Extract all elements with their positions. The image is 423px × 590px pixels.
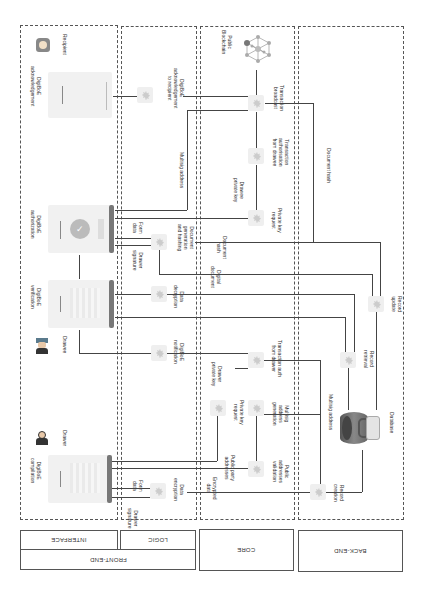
multisig-generation-node[interactable] — [248, 400, 264, 416]
tx-broadcast-node[interactable] — [248, 95, 264, 111]
public-addresses-validation-label: Public addresses validation — [272, 460, 290, 483]
compilation-screen[interactable] — [48, 455, 112, 503]
record-retrieval-label: Record retrieval — [363, 350, 375, 368]
database-label: Database — [389, 412, 395, 433]
edge-multisig-horizontal-top — [187, 110, 248, 111]
authorization-screen[interactable]: ✓ — [48, 205, 112, 253]
gear-icon — [154, 289, 165, 300]
edge-decryption-retrieval-vertical — [354, 294, 355, 352]
data-encryption-node[interactable] — [150, 483, 166, 499]
frontend-label: FRONT-END — [20, 549, 196, 570]
edge-ack-node-to-broadcast — [183, 96, 248, 97]
gear-icon — [251, 213, 262, 224]
edge-document-hash — [195, 242, 380, 243]
data-decryption-label: Data decryption — [173, 285, 185, 308]
edge-creation-to-db-h — [326, 492, 362, 493]
edge-compilation-to-pk-request — [112, 461, 217, 462]
drawer-avatar-icon — [35, 431, 49, 445]
edge-multisig-vertical — [187, 110, 188, 210]
private-key-request-bottom-label: Private key request — [233, 400, 245, 425]
edge-auth-to-verification — [79, 255, 80, 279]
gear-icon — [153, 486, 164, 497]
public-addresses-validation-node[interactable] — [248, 461, 264, 477]
backend-label: BACK-END — [298, 530, 403, 572]
form-data-label-top: Form data — [132, 222, 144, 234]
form-data-label-bottom: Form data — [132, 480, 144, 492]
multisig-address-label-bottom: Multisig address — [328, 394, 334, 430]
edge-form-data-top — [115, 238, 151, 239]
private-key-request-top-label: Private key request — [271, 208, 283, 233]
acknowledgement-screen-title: DigiBoE acknowledgement — [30, 66, 42, 106]
tx-auth-drawer-node[interactable] — [248, 352, 264, 368]
encrypted-data-label: Encrypted data — [206, 477, 218, 500]
edge-long-hash-to-broadcast — [265, 103, 313, 104]
edge-pk-request-bottom-vertical — [217, 416, 218, 461]
edge-decryption-to-retrieval — [167, 294, 354, 295]
tx-auth-drawee-node[interactable] — [248, 148, 264, 164]
doc-generation-label: Document generation and hashing — [177, 224, 195, 251]
doc-generation-node[interactable] — [151, 234, 167, 250]
gear-icon — [371, 299, 382, 310]
edge-multisig-to-generation — [264, 414, 320, 415]
recipient-label: Recipient — [62, 34, 68, 55]
interface-label: INTERFACE — [20, 530, 118, 550]
edge-encrypted-data — [187, 492, 310, 493]
edge-signature-top — [115, 245, 151, 246]
edge-signature-bottom — [112, 497, 150, 498]
drawer-signature-label-top: Drawer signature — [132, 250, 144, 271]
drawee-label: Drawee — [62, 336, 68, 353]
gear-icon — [251, 355, 262, 366]
gear-icon — [251, 98, 262, 109]
gear-icon — [251, 403, 262, 414]
edge-retrieval-to-db — [348, 368, 349, 410]
edge-multisig-bottom-vertical — [320, 360, 321, 484]
data-decryption-node[interactable] — [151, 286, 167, 302]
edge-update-to-db — [376, 312, 377, 410]
edge-verification-to-retrieval — [115, 317, 345, 318]
document-hash-label: Document hash — [216, 236, 228, 259]
notification-node[interactable] — [151, 345, 167, 361]
edge-verification-to-decryption — [115, 294, 151, 295]
database-icon — [340, 410, 382, 446]
drawee-avatar-icon — [35, 338, 49, 354]
edge-docgen-down — [159, 250, 160, 274]
record-retrieval-node[interactable] — [340, 352, 356, 368]
edge-compilation-to-validation — [112, 468, 248, 469]
public-blockchain-icon — [242, 33, 274, 65]
edge-creation-to-db-v — [362, 450, 363, 492]
compilation-screen-bar — [107, 455, 112, 503]
private-key-request-top-node[interactable] — [248, 210, 264, 226]
edge-form-data-bottom — [112, 488, 150, 489]
tx-auth-drawer-label: Transaction auth from drawer — [271, 340, 283, 377]
gear-icon — [140, 90, 151, 101]
edge-long-document-hash — [313, 103, 314, 242]
gear-icon — [154, 237, 165, 248]
notification-label: DigiBoE notification — [173, 340, 185, 364]
record-creation-node[interactable] — [310, 484, 326, 500]
edge-ack-screen-to-node — [113, 96, 137, 97]
edge-drawee-to-notification — [79, 353, 151, 354]
multisig-address-label-top: Multisig address — [179, 152, 185, 188]
gear-icon — [213, 403, 224, 414]
drawee-private-key-label: Drawee private key — [233, 178, 245, 202]
private-key-request-bottom-node[interactable] — [210, 400, 226, 416]
gear-icon — [154, 348, 165, 359]
logic-label: LOGIC — [120, 530, 196, 550]
ack-to-recipient-node[interactable] — [137, 87, 153, 103]
edge-multisig-to-auth-screen — [115, 210, 187, 211]
edge-verification-retrieval-vertical — [345, 317, 346, 352]
drawer-label: Drawer — [62, 430, 68, 446]
recipient-avatar-icon — [36, 38, 50, 52]
edge-auth-screen-to-pk-request — [115, 218, 248, 219]
record-update-node[interactable] — [368, 296, 384, 312]
edge-broadcast-to-blockchain — [256, 70, 257, 95]
public-blockchain-label: Public Blockchain — [221, 30, 233, 54]
verification-screen[interactable] — [48, 280, 112, 328]
edge-drawer-private-key — [235, 368, 248, 369]
verification-screen-bar — [109, 280, 114, 328]
acknowledgement-screen[interactable] — [48, 72, 112, 118]
drawer-signature-label-bottom: Drawer signature — [127, 508, 139, 529]
edge-tx-auth-to-pk — [256, 165, 257, 210]
digital-document-label: Digital document — [210, 266, 222, 288]
compilation-screen-title: DigiBoE compilation — [30, 458, 42, 483]
